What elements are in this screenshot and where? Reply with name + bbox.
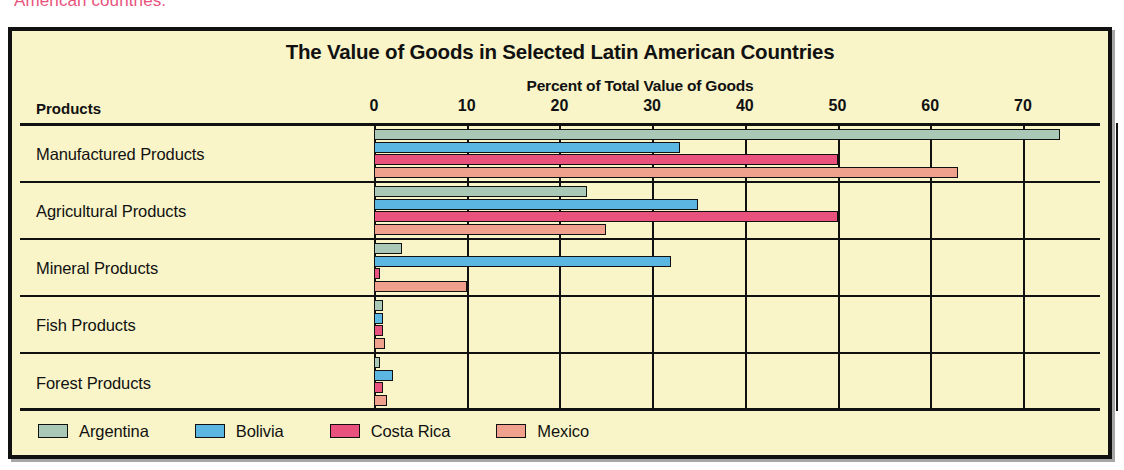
bar-mexico xyxy=(374,281,467,292)
bar-bolivia xyxy=(374,313,383,324)
legend-label: Costa Rica xyxy=(371,422,451,441)
legend-swatch-icon xyxy=(330,424,360,438)
gridline-80 xyxy=(1116,123,1118,411)
x-tick-label-40: 40 xyxy=(736,97,754,115)
category-label: Mineral Products xyxy=(36,258,158,277)
legend-item-argentina[interactable]: Argentina xyxy=(38,422,149,441)
bar-bolivia xyxy=(374,370,393,381)
x-axis-tick-labels: 010203040506070 xyxy=(12,97,1108,119)
chart-title: The Value of Goods in Selected Latin Ame… xyxy=(12,40,1108,64)
bar-argentina xyxy=(374,129,1060,140)
bar-mexico xyxy=(374,224,606,235)
x-tick-label-60: 60 xyxy=(921,97,939,115)
x-tick-label-0: 0 xyxy=(370,97,379,115)
legend-item-mexico[interactable]: Mexico xyxy=(496,422,589,441)
chart-row: Forest Products xyxy=(20,354,1100,411)
bar-mexico xyxy=(374,167,958,178)
bar-group xyxy=(20,354,1100,411)
legend-item-bolivia[interactable]: Bolivia xyxy=(195,422,284,441)
bar-argentina xyxy=(374,243,402,254)
legend-label: Mexico xyxy=(537,422,589,441)
bar-mexico xyxy=(374,338,385,349)
plot-area: Manufactured ProductsAgricultural Produc… xyxy=(20,123,1100,411)
x-tick-label-10: 10 xyxy=(458,97,476,115)
x-tick-label-20: 20 xyxy=(550,97,568,115)
x-tick-label-70: 70 xyxy=(1014,97,1032,115)
legend-swatch-icon xyxy=(496,424,526,438)
bar-group xyxy=(20,297,1100,352)
chart-row: Mineral Products xyxy=(20,240,1100,297)
bar-costa-rica xyxy=(374,211,838,222)
bar-bolivia xyxy=(374,256,671,267)
category-label: Forest Products xyxy=(36,373,151,392)
bar-group xyxy=(20,240,1100,295)
chart-row: Agricultural Products xyxy=(20,183,1100,240)
category-label: Fish Products xyxy=(36,315,136,334)
legend-label: Argentina xyxy=(79,422,149,441)
caption-fragment: American countries. xyxy=(14,0,166,11)
bar-costa-rica xyxy=(374,154,838,165)
legend-item-costa-rica[interactable]: Costa Rica xyxy=(330,422,451,441)
bar-costa-rica xyxy=(374,325,383,336)
bar-costa-rica xyxy=(374,268,380,279)
x-axis-title: Percent of Total Value of Goods xyxy=(430,77,850,95)
bar-mexico xyxy=(374,395,387,406)
x-tick-label-50: 50 xyxy=(829,97,847,115)
bar-bolivia xyxy=(374,199,698,210)
bar-bolivia xyxy=(374,142,680,153)
legend-swatch-icon xyxy=(195,424,225,438)
chart-row: Fish Products xyxy=(20,297,1100,354)
bar-costa-rica xyxy=(374,382,383,393)
chart-figure: The Value of Goods in Selected Latin Ame… xyxy=(8,27,1112,459)
chart-row: Manufactured Products xyxy=(20,126,1100,183)
bar-argentina xyxy=(374,357,380,368)
chart-legend: ArgentinaBoliviaCosta RicaMexico xyxy=(20,411,1100,451)
category-label: Agricultural Products xyxy=(36,201,186,220)
category-label: Manufactured Products xyxy=(36,144,205,163)
bar-argentina xyxy=(374,186,587,197)
legend-swatch-icon xyxy=(38,424,68,438)
x-tick-label-30: 30 xyxy=(643,97,661,115)
legend-label: Bolivia xyxy=(236,422,284,441)
bar-argentina xyxy=(374,300,383,311)
